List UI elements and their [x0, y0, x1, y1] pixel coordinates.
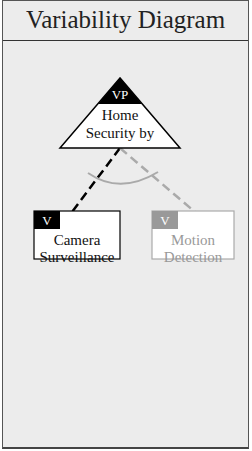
variant-motion-line1: Motion: [152, 231, 234, 249]
variant-motion-line2: Detection: [152, 248, 234, 266]
variant-camera-line1: Camera: [34, 231, 120, 249]
vp-label-line2: Security by: [70, 124, 170, 142]
unselected-link: [120, 148, 195, 212]
vp-badge: VP: [98, 86, 142, 104]
vp-label-line1: Home: [70, 106, 170, 124]
variant-camera-badge: V: [34, 212, 60, 230]
alternative-arc: [88, 172, 158, 184]
selected-link: [72, 148, 120, 212]
variant-motion-badge: V: [152, 212, 178, 230]
variant-camera-line2: Surveillance: [34, 248, 120, 266]
